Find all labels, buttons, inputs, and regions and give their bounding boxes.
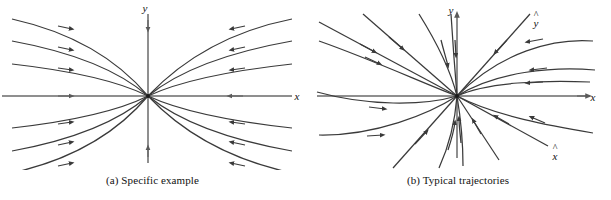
y-axis-label: y (448, 4, 454, 16)
flow-arrow (231, 163, 245, 166)
phase-portrait-figure: y x (a) Specific example (0, 0, 611, 200)
trajectory-curve (148, 19, 292, 96)
panel-a-plot: y x (0, 0, 305, 170)
flow-arrow (231, 68, 245, 70)
panel-specific-example: y x (a) Specific example (0, 0, 305, 200)
flow-arrow (58, 142, 72, 145)
panel-typical-trajectories: y x ^ y ^ x (b) Typical trajectories (305, 0, 611, 200)
flow-arrow (231, 142, 245, 145)
equilibrium-point (146, 94, 150, 98)
trajectory-curve (12, 64, 148, 96)
flow-arrow (231, 122, 245, 124)
x-axis-label: x (294, 90, 300, 102)
trajectory-curve (148, 96, 292, 128)
panel-a-axes (2, 14, 292, 163)
caption-panel-a: (a) Specific example (0, 174, 305, 186)
flow-arrow (58, 163, 72, 166)
flow-arrow (415, 131, 427, 144)
trajectory-line (363, 14, 457, 96)
flow-arrow (495, 116, 509, 124)
flow-arrow (389, 37, 403, 49)
trajectory-curve (457, 81, 590, 96)
xhat-axis-upper (319, 22, 457, 96)
yhat-axis-lower (393, 96, 457, 168)
flow-arrow (473, 120, 481, 134)
yhat-axis-label-group: ^ y (533, 9, 539, 29)
trajectory-curve (319, 96, 457, 135)
equilibrium-point (455, 94, 459, 98)
panel-a-trajectories (12, 19, 292, 170)
flow-arrow (448, 122, 455, 150)
xhat-axis-label-group: ^ x (552, 142, 558, 162)
flow-arrow (360, 44, 375, 52)
flow-arrow (365, 57, 380, 64)
trajectory-curve (12, 19, 148, 96)
y-axis-label: y (142, 2, 148, 14)
trajectory-curve (12, 96, 148, 128)
flow-arrow (231, 26, 245, 29)
flow-arrow (58, 68, 72, 70)
trajectory-curve (317, 92, 457, 103)
flow-arrow (527, 39, 543, 42)
panel-b-straight-trajectories (363, 14, 499, 168)
panel-b-eigen-lines (319, 14, 548, 168)
flow-arrow (58, 122, 72, 124)
caption-panel-b: (b) Typical trajectories (305, 174, 611, 186)
x-axis-label: x (590, 91, 596, 103)
flow-arrow (369, 107, 385, 109)
trajectory-curve (148, 64, 292, 96)
trajectory-curve (319, 41, 457, 96)
flow-arrow (367, 135, 383, 136)
flow-arrow (455, 40, 456, 56)
flow-arrow (58, 26, 72, 29)
panel-b-plot: y x ^ y ^ x (305, 0, 611, 175)
yhat-axis-label: y (533, 17, 539, 29)
flow-arrow (58, 47, 72, 50)
flow-arrow (231, 47, 245, 50)
flow-arrow (495, 40, 507, 53)
yhat-axis-upper (457, 14, 530, 96)
xhat-axis-label: x (552, 150, 558, 162)
